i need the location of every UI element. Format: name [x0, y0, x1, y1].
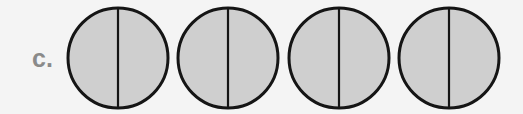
circle-1: [68, 8, 168, 108]
circle-2: [178, 8, 278, 108]
fraction-circles-figure: [0, 0, 523, 114]
circle-3: [289, 8, 389, 108]
circle-4: [399, 8, 499, 108]
